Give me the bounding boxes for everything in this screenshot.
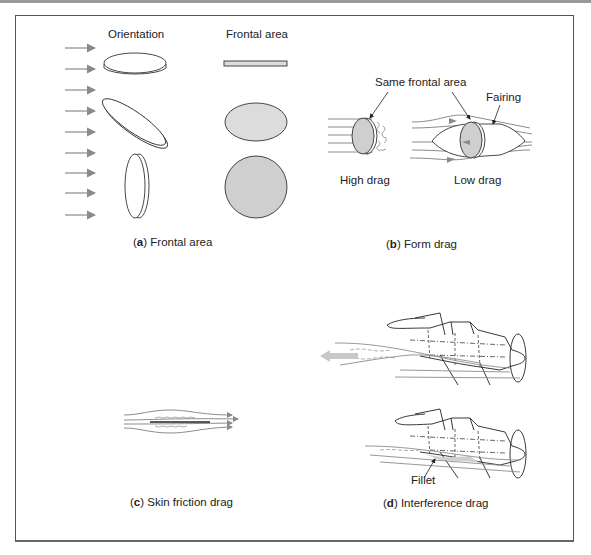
frontal-area-thin xyxy=(224,61,287,66)
label-high-drag: High drag xyxy=(340,174,390,186)
airplane-no-fillet xyxy=(387,313,526,385)
disc-vertical xyxy=(125,154,149,218)
label-fillet: Fillet xyxy=(411,474,435,486)
high-drag-figure xyxy=(328,118,386,154)
wake-flow-lines xyxy=(335,343,520,378)
caption-panel-c: (c) Skin friction drag xyxy=(130,496,233,508)
frontal-area-circle xyxy=(225,156,287,218)
leader-high-drag xyxy=(370,92,388,118)
caption-panel-d: (d) Interference drag xyxy=(383,497,489,509)
label-same-frontal-area: Same frontal area xyxy=(375,76,466,88)
low-drag-figure xyxy=(410,115,532,163)
frontal-area-oval xyxy=(225,103,287,141)
caption-panel-b: (b) Form drag xyxy=(386,238,457,250)
skin-friction-figure xyxy=(124,410,238,433)
disc-horizontal xyxy=(104,53,166,74)
label-low-drag: Low drag xyxy=(454,174,501,186)
label-orientation: Orientation xyxy=(108,28,164,40)
flow-arrows-panel-a xyxy=(65,48,95,215)
caption-panel-a: (a) Frontal area xyxy=(133,236,212,248)
wake-arrow-icon xyxy=(320,350,358,362)
disc-tilted xyxy=(97,92,173,155)
label-fairing: Fairing xyxy=(486,91,521,103)
label-frontal-area: Frontal area xyxy=(226,28,288,40)
drag-diagram xyxy=(0,0,591,555)
